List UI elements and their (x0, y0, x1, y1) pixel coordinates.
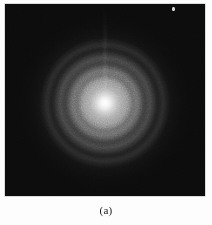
plate-vignette (5, 4, 205, 196)
radial-streak (5, 4, 205, 196)
figure-caption: (a) (0, 203, 212, 217)
central-beam-spot (5, 4, 205, 196)
diffraction-halo-rings (5, 4, 205, 196)
figure-root: (a) (0, 0, 212, 225)
diffraction-pattern-panel (5, 4, 205, 196)
bright-speck-icon (172, 7, 175, 11)
film-grain-noise (5, 4, 205, 196)
